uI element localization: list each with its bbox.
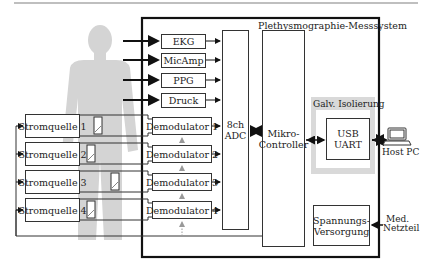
usb-uart-block: USB UART xyxy=(326,118,370,160)
host-pc-label: Host PC xyxy=(382,147,419,158)
current-source-2: Stromquelle 2 xyxy=(25,142,80,166)
current-source-4: Stromquelle 4 xyxy=(25,198,80,222)
med-netzteil-label: Med. Netzteil xyxy=(383,215,419,233)
sensor-druck: Druck xyxy=(161,93,206,108)
adc-line2: ADC xyxy=(225,130,247,141)
adc-block: 8ch ADC xyxy=(222,30,249,230)
med-line2: Netzteil xyxy=(383,224,419,233)
laptop-icon xyxy=(383,128,411,145)
sensor-micamp: MicAmp xyxy=(161,53,206,68)
usb-line2: UART xyxy=(334,139,362,150)
mcu-line1: Mikro- xyxy=(268,128,300,139)
sensor-ekg: EKG xyxy=(161,34,206,49)
demodulator-4: Demodulator 4 xyxy=(152,201,212,219)
demodulator-1: Demodulator 1 xyxy=(152,117,212,135)
power-supply-block: Spannungs- Versorgung xyxy=(313,205,370,246)
demodulator-2: Demodulator 2 xyxy=(152,145,212,163)
power-line2: Versorgung xyxy=(314,226,370,237)
current-source-1: Stromquelle 1 xyxy=(25,114,80,138)
power-line1: Spannungs- xyxy=(313,215,370,226)
mcu-line2: Controller xyxy=(259,139,308,150)
microcontroller-block: Mikro- Controller xyxy=(262,30,305,247)
isolation-title: Galv. Isolierung xyxy=(313,99,385,110)
adc-line1: 8ch xyxy=(227,119,244,130)
sensor-ppg: PPG xyxy=(161,73,206,88)
demodulator-3: Demodulator 3 xyxy=(152,173,212,191)
usb-line1: USB xyxy=(337,128,359,139)
current-source-3: Stromquelle 3 xyxy=(25,170,80,194)
